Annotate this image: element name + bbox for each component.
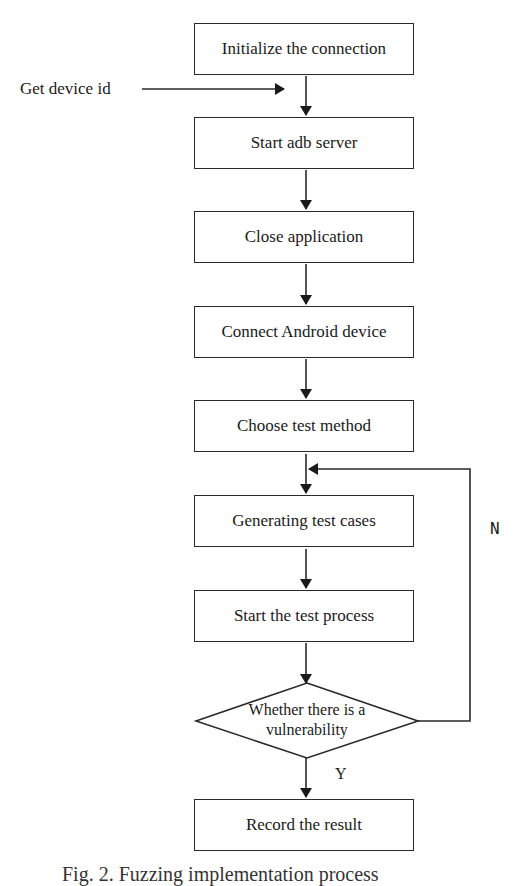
no-label: N <box>490 519 500 538</box>
step-label: Connect Android device <box>221 322 386 342</box>
step-start-test-process: Start the test process <box>194 590 414 642</box>
step-close-application: Close application <box>194 211 414 263</box>
step-connect-android-device: Connect Android device <box>194 306 414 358</box>
step-label: Generating test cases <box>232 511 376 531</box>
step-label: Start the test process <box>234 606 374 626</box>
step-generating-test-cases: Generating test cases <box>194 495 414 547</box>
step-initialize-connection: Initialize the connection <box>194 23 414 75</box>
step-label: Initialize the connection <box>222 39 386 59</box>
figure-caption: Fig. 2. Fuzzing implementation process <box>62 863 379 886</box>
step-label: Record the result <box>246 815 362 835</box>
decision-label: Whether there is a vulnerability <box>196 700 418 740</box>
step-record-result: Record the result <box>194 799 414 851</box>
step-start-adb-server: Start adb server <box>194 117 414 169</box>
step-choose-test-method: Choose test method <box>194 400 414 452</box>
step-label: Start adb server <box>251 133 358 153</box>
step-label: Choose test method <box>237 416 371 436</box>
yes-label: Y <box>335 765 347 783</box>
step-label: Close application <box>245 227 364 247</box>
decision-line-1: Whether there is a <box>196 700 418 720</box>
side-input-label: Get device id <box>20 79 111 99</box>
decision-line-2: vulnerability <box>196 720 418 740</box>
